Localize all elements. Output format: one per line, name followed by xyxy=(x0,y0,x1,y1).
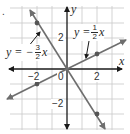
fraction-shallow-denominator: 2 xyxy=(91,33,97,41)
equation-steep-prefix: y = − xyxy=(6,45,34,60)
equation-steep-suffix: x xyxy=(42,45,47,60)
coordinate-graph: . y x 2 −2 −2 2 0 y = − 3 2 x y = 1 2 x xyxy=(0,0,130,134)
point-shallow-left xyxy=(35,82,40,87)
point-steep-upper xyxy=(35,21,40,26)
y-tick-neg2: −2 xyxy=(51,99,64,109)
x-tick-2: 2 xyxy=(93,72,101,82)
fraction-steep-denominator: 2 xyxy=(35,53,41,61)
point-shallow-right xyxy=(95,52,100,57)
equation-shallow: y = 1 2 x xyxy=(74,24,104,41)
equation-shallow-suffix: x xyxy=(99,25,104,40)
x-axis-label: x xyxy=(119,55,124,67)
x-tick-neg2: −2 xyxy=(27,72,40,82)
fraction-shallow: 1 2 xyxy=(91,24,97,41)
figure-marker: . xyxy=(2,6,5,17)
graph-canvas xyxy=(0,0,130,134)
origin-label: 0 xyxy=(57,72,65,82)
y-tick-2: 2 xyxy=(57,33,65,43)
pointer-shallow xyxy=(86,41,89,58)
point-steep-lower xyxy=(95,112,100,117)
y-axis-label: y xyxy=(71,3,76,15)
equation-steep: y = − 3 2 x xyxy=(6,44,47,61)
equation-shallow-prefix: y = xyxy=(74,25,90,40)
fraction-steep: 3 2 xyxy=(35,44,41,61)
